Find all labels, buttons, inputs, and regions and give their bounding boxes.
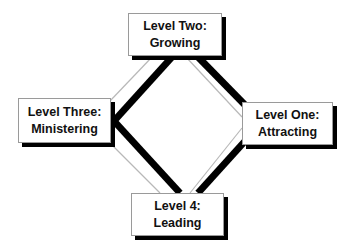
node-subtitle: Attracting	[258, 124, 317, 141]
node-title: Level 4:	[154, 198, 201, 215]
node-level-two-growing: Level Two: Growing	[128, 13, 222, 56]
thick-line-top-right	[198, 57, 246, 106]
node-level-one-attracting: Level One: Attracting	[242, 102, 333, 145]
thick-connector-lines	[114, 57, 246, 193]
thin-line-bottom-right	[190, 128, 242, 193]
node-subtitle: Growing	[150, 35, 201, 52]
node-title: Level Two:	[143, 18, 207, 35]
thin-line-top-left	[110, 57, 152, 101]
thin-line-top-right	[186, 57, 242, 117]
node-subtitle: Ministering	[31, 121, 98, 138]
node-title: Level One:	[256, 107, 320, 124]
node-subtitle: Leading	[154, 215, 202, 232]
thick-line-bottom-right	[198, 140, 246, 193]
node-title: Level Three:	[28, 104, 102, 121]
node-level-four-leading: Level 4: Leading	[131, 193, 224, 236]
node-level-three-ministering: Level Three: Ministering	[18, 98, 111, 143]
thin-line-bottom-left	[112, 145, 160, 193]
